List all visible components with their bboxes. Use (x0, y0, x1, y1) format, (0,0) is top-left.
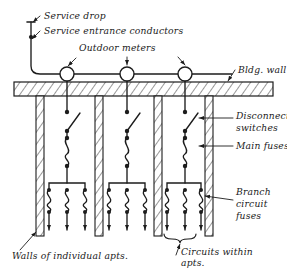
apartment-riser-1 (47, 74, 86, 230)
disconnect-switch-blade-2 (127, 113, 140, 131)
leader-apartment-walls (20, 232, 36, 250)
label-outdoor-meters: Outdoor meters (79, 42, 156, 54)
label-branch-line1: Branch (236, 186, 271, 198)
label-disconnect-switches-line2: switches (236, 122, 278, 134)
main-fuse-1 (65, 138, 68, 166)
main-fuse-3 (183, 138, 186, 166)
riser-3-terminals (165, 110, 203, 214)
label-walls-of-apartments: Walls of individual apts. (12, 250, 128, 262)
main-fuse-2 (125, 138, 128, 166)
label-main-fuses: Main fuses (236, 140, 287, 152)
label-disconnect-switches-line1: Disconnect (236, 110, 287, 122)
leader-meter-3 (178, 57, 185, 65)
label-branch-line3: fuses (236, 210, 261, 222)
riser-1-terminals (47, 110, 87, 214)
disconnect-switch-blade-3 (185, 113, 198, 131)
label-bldg-wall: Bldg. wall (238, 64, 287, 76)
leader-meter-1 (68, 58, 76, 66)
label-service-entrance-conductors: Service entrance conductors (44, 25, 183, 37)
apartment-riser-3 (165, 74, 202, 230)
label-service-drop: Service drop (44, 10, 106, 22)
building-wall-band (14, 82, 273, 96)
leader-circuits (176, 244, 180, 255)
service-entrance-diagram: Service drop Service entrance conductors… (0, 0, 287, 270)
wiring-schematic (0, 0, 287, 270)
label-branch-line2: circuit (236, 198, 268, 210)
circuits-brace (164, 234, 196, 243)
apartment-riser-2 (107, 74, 146, 230)
disconnect-switch-blade-1 (67, 113, 80, 131)
leader-service-entrance (32, 31, 40, 39)
leader-bldg-wall (228, 70, 235, 81)
riser-2-terminals (107, 110, 147, 214)
leader-service-drop (33, 16, 40, 22)
label-circuits-line2: apts. (181, 257, 205, 269)
label-circuits-line1: Circuits within (181, 246, 253, 258)
